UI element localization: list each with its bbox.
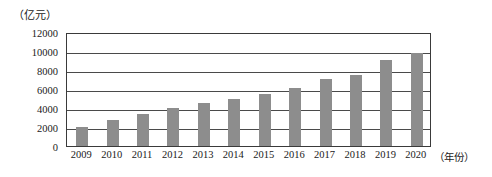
y-axis: 120001000080006000400020000 <box>0 0 62 177</box>
y-axis-tick-label: 12000 <box>0 28 62 39</box>
bar <box>198 103 210 146</box>
bar <box>107 120 119 146</box>
x-axis-tick-label: 2013 <box>192 149 213 160</box>
y-axis-tick-label: 8000 <box>0 66 62 77</box>
bar <box>411 53 423 146</box>
gridline <box>67 91 430 92</box>
y-axis-tick-label: 6000 <box>0 85 62 96</box>
bar <box>259 94 271 146</box>
x-axis-tick-label: 2009 <box>71 149 92 160</box>
bar <box>289 88 301 146</box>
gridline <box>67 72 430 73</box>
x-axis-tick-label: 2020 <box>405 149 426 160</box>
x-axis-tick-label: 2019 <box>375 149 396 160</box>
y-axis-tick-label: 10000 <box>0 47 62 58</box>
plot-area <box>66 33 431 147</box>
x-axis: 2009201020112012201320142015201620172018… <box>66 149 431 169</box>
x-axis-tick-label: 2011 <box>132 149 153 160</box>
bar <box>228 99 240 147</box>
x-axis-tick-label: 2010 <box>101 149 122 160</box>
bar <box>320 79 332 146</box>
y-axis-tick-label: 2000 <box>0 123 62 134</box>
x-axis-tick-label: 2015 <box>253 149 274 160</box>
x-axis-tick-label: 2012 <box>162 149 183 160</box>
y-axis-tick-label: 0 <box>0 142 62 153</box>
gridline <box>67 53 430 54</box>
bar <box>167 108 179 146</box>
gridline <box>67 110 430 111</box>
gridline <box>67 129 430 130</box>
x-axis-tick-label: 2014 <box>223 149 244 160</box>
x-axis-title: （年份） <box>434 149 474 164</box>
bar <box>76 127 88 146</box>
x-axis-tick-label: 2017 <box>314 149 335 160</box>
bar <box>137 114 149 146</box>
bar <box>380 60 392 146</box>
bar-chart: （亿元） 120001000080006000400020000 2009201… <box>0 0 492 177</box>
y-axis-tick-label: 4000 <box>0 104 62 115</box>
bar <box>350 75 362 146</box>
x-axis-tick-label: 2016 <box>284 149 305 160</box>
x-axis-tick-label: 2018 <box>344 149 365 160</box>
